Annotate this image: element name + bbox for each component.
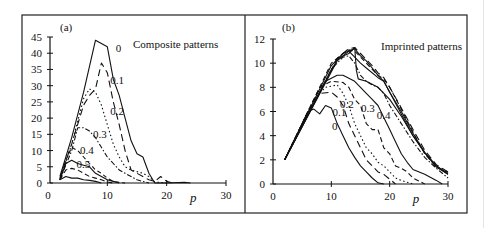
curve-label: 0 bbox=[332, 120, 338, 132]
y-tick-label: 45 bbox=[31, 31, 43, 43]
y-tick-label: 35 bbox=[31, 63, 43, 75]
curve-0-5 bbox=[285, 56, 448, 178]
y-tick-label: 6 bbox=[260, 106, 266, 118]
y-tick-label: 8 bbox=[260, 81, 266, 93]
y-tick-label: 12 bbox=[254, 33, 265, 45]
curve-label: 0.3 bbox=[361, 102, 375, 114]
y-tick-label: 15 bbox=[31, 128, 43, 140]
panel-a-label: (a) bbox=[60, 21, 73, 34]
curve-label: 0.5 bbox=[76, 158, 90, 170]
y-tick-label: 10 bbox=[254, 57, 266, 69]
panel-b: (b) Imprinted patterns 0246810120102030p… bbox=[254, 21, 462, 206]
curve-label: 0.1 bbox=[333, 106, 347, 118]
curve-label: 0 bbox=[116, 42, 122, 54]
x-tick-label: 10 bbox=[102, 189, 114, 201]
x-tick-label: 10 bbox=[326, 190, 338, 202]
x-tick-label: 30 bbox=[221, 189, 233, 201]
page-edge-divider bbox=[483, 0, 484, 228]
x-axis-label: p bbox=[189, 190, 197, 205]
curve-label: 0.3 bbox=[93, 128, 107, 140]
y-tick-label: 10 bbox=[31, 145, 43, 157]
y-tick-label: 30 bbox=[31, 80, 43, 92]
y-tick-label: 20 bbox=[31, 112, 43, 124]
y-tick-label: 25 bbox=[31, 96, 43, 108]
y-tick-label: 0 bbox=[37, 177, 43, 189]
x-tick-label: 20 bbox=[161, 189, 173, 201]
x-tick-label: 0 bbox=[270, 190, 276, 202]
panel-a: (a) Composite patterns 05101520253035404… bbox=[31, 21, 232, 205]
figure: (a) Composite patterns 05101520253035404… bbox=[0, 0, 487, 228]
x-tick-label: 20 bbox=[384, 190, 396, 202]
curve-label: 0.4 bbox=[377, 109, 391, 121]
curve-label: 0.4 bbox=[80, 144, 94, 156]
x-tick-label: 30 bbox=[443, 190, 455, 202]
curve-label: 0.1 bbox=[110, 74, 124, 86]
panel-b-title: Imprinted patterns bbox=[381, 40, 462, 52]
y-tick-label: 4 bbox=[260, 130, 266, 142]
curve-0-4 bbox=[285, 75, 443, 184]
panel-b-axes: 0246810120102030p bbox=[254, 33, 454, 206]
x-axis-label: p bbox=[412, 191, 420, 206]
curve-0-6 bbox=[60, 168, 113, 183]
panel-b-curve-labels: 0.20.10.30.40 bbox=[332, 98, 391, 132]
curve-0-3 bbox=[285, 81, 425, 184]
curve-label: 0.2 bbox=[110, 105, 124, 117]
x-tick-label: 0 bbox=[45, 189, 51, 201]
panel-b-label: (b) bbox=[282, 21, 295, 34]
y-tick-label: 5 bbox=[37, 161, 43, 173]
y-tick-label: 0 bbox=[260, 178, 266, 190]
y-tick-label: 40 bbox=[31, 47, 43, 59]
y-tick-label: 2 bbox=[260, 154, 266, 166]
panel-b-curves bbox=[285, 48, 448, 185]
panel-a-title: Composite patterns bbox=[133, 38, 218, 50]
